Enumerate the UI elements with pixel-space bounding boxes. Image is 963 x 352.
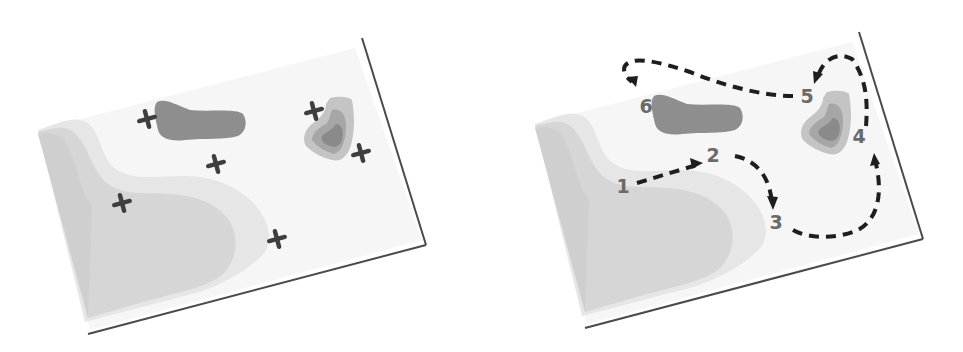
route-stop-label: 4 (852, 125, 865, 147)
route-stop-label: 2 (706, 144, 719, 166)
left-map (38, 38, 426, 334)
route-stop-label: 3 (769, 211, 782, 233)
right-map (535, 32, 923, 328)
route-stop-label: 5 (800, 85, 813, 107)
route-stop-label: 1 (616, 175, 629, 197)
map-illustration: 123456 (0, 0, 963, 352)
route-stop-label: 6 (639, 95, 652, 117)
